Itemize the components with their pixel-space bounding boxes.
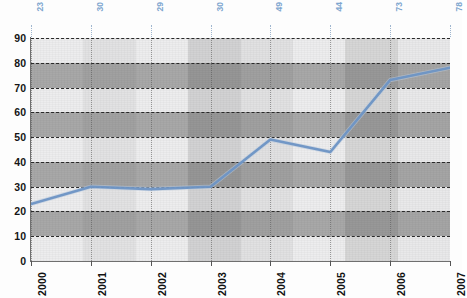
x-tick-label: 2000 [36, 256, 48, 296]
x-tick [330, 261, 331, 266]
data-line [31, 38, 450, 261]
point-value-label: 49 [274, 2, 284, 32]
y-tick-label: 10 [2, 230, 26, 242]
x-tick-label: 2004 [275, 256, 287, 296]
top-label-leader [390, 25, 391, 37]
point-value-label: 78 [454, 2, 464, 32]
x-tick [211, 261, 212, 266]
y-tick-label: 40 [2, 156, 26, 168]
x-tick [270, 261, 271, 266]
plot-area [31, 38, 450, 261]
point-value-label: 23 [35, 2, 45, 32]
top-label-leader [211, 25, 212, 37]
x-tick [91, 261, 92, 266]
point-value-label: 44 [334, 2, 344, 32]
x-tick-label: 2002 [156, 256, 168, 296]
x-tick-label: 2001 [96, 256, 108, 296]
x-tick [390, 261, 391, 266]
y-axis-line [30, 37, 31, 262]
y-tick-label: 80 [2, 57, 26, 69]
y-tick-label: 70 [2, 82, 26, 94]
point-value-label: 30 [95, 2, 105, 32]
x-tick [450, 261, 451, 266]
point-value-label: 29 [155, 2, 165, 32]
x-tick-label: 2003 [216, 256, 228, 296]
y-tick-label: 20 [2, 205, 26, 217]
top-label-leader [450, 25, 451, 37]
top-label-leader [330, 25, 331, 37]
x-tick-label: 2007 [455, 256, 467, 296]
top-label-leader [31, 25, 32, 37]
top-label-leader [151, 25, 152, 37]
x-tick [31, 261, 32, 266]
x-axis-line [30, 261, 451, 262]
top-label-leader [91, 25, 92, 37]
point-value-label: 73 [394, 2, 404, 32]
x-tick-label: 2006 [395, 256, 407, 296]
point-value-label: 30 [215, 2, 225, 32]
y-tick-label: 30 [2, 181, 26, 193]
y-tick-label: 0 [2, 255, 26, 267]
x-tick [151, 261, 152, 266]
y-tick-label: 60 [2, 106, 26, 118]
y-tick-label: 90 [2, 32, 26, 44]
x-tick-label: 2005 [335, 256, 347, 296]
y-tick-label: 50 [2, 131, 26, 143]
top-label-leader [270, 25, 271, 37]
